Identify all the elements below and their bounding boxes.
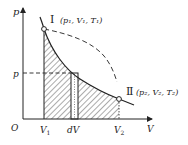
- v1-tick-label: V1: [40, 125, 50, 136]
- dv-tick-label: dV: [67, 125, 81, 135]
- state-II-point: [117, 97, 122, 102]
- pv-diagram: p V O p V1 dV V2 Ⅰ (p₁, V₁, T₁) Ⅱ (p₂, V…: [0, 0, 188, 145]
- state-II-params: (p₂, V₂, T₂): [136, 88, 178, 97]
- state-II-roman: Ⅱ: [126, 85, 133, 98]
- state-I-params: (p₁, V₁, T₁): [60, 16, 102, 25]
- p-tick-label: p: [13, 69, 19, 79]
- state-I-point: [42, 27, 47, 32]
- origin-label: O: [11, 123, 19, 133]
- v2-tick-label: V2: [114, 125, 125, 136]
- state-I-roman: Ⅰ: [50, 13, 54, 26]
- work-shaded-region: [44, 29, 119, 119]
- p-axis-label: p: [13, 6, 20, 17]
- v-axis-label: V: [147, 124, 155, 134]
